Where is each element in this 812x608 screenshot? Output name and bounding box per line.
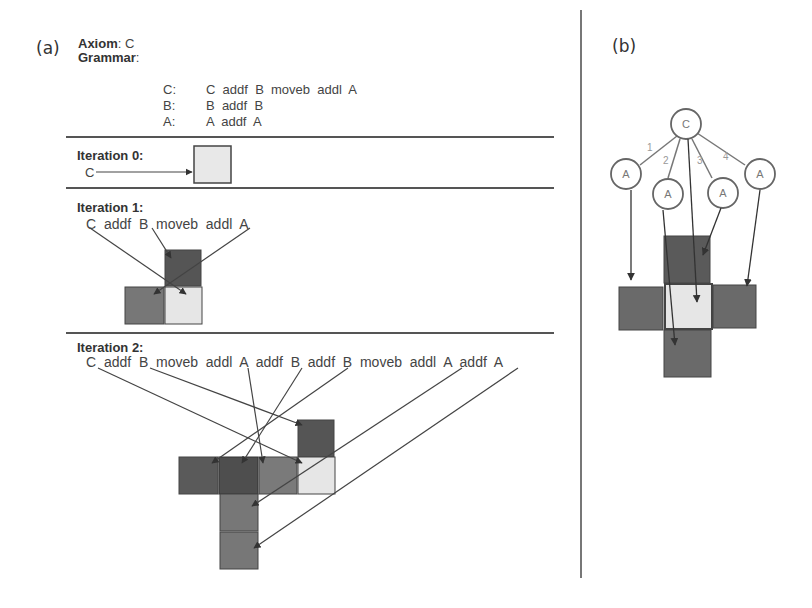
svg-text:A: A xyxy=(622,168,630,180)
iteration-2-diagram xyxy=(98,368,518,569)
cell-b-top xyxy=(165,250,201,286)
svg-text:4: 4 xyxy=(723,151,729,162)
cell-a-3 xyxy=(220,532,258,569)
iteration-0-diagram xyxy=(96,146,231,183)
svg-text:C: C xyxy=(682,118,690,130)
svg-text:A: A xyxy=(664,188,672,200)
svg-text:A: A xyxy=(719,187,727,199)
iteration-1-diagram xyxy=(90,228,250,324)
cell-a-left xyxy=(125,287,164,324)
cell-a-2 xyxy=(220,494,258,531)
cell-c-center xyxy=(298,457,335,494)
cell-b-2 xyxy=(219,457,258,494)
diagram-graphics: 1 2 3 4 C A A A A xyxy=(0,0,812,608)
svg-text:1: 1 xyxy=(647,142,653,153)
svg-text:3: 3 xyxy=(697,155,703,166)
panel-b-diagram: 1 2 3 4 C A A A A xyxy=(611,109,775,377)
svg-text:2: 2 xyxy=(663,155,669,166)
svg-text:A: A xyxy=(756,168,764,180)
cell-c xyxy=(194,146,231,183)
cell-b-top xyxy=(298,420,334,457)
